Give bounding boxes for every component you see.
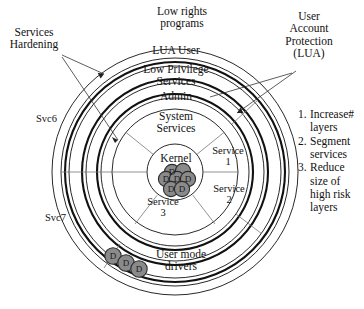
recommendations-list: 1. Increase# layers 2. Segment services … xyxy=(298,108,362,215)
driver-glyph: D xyxy=(185,174,192,184)
leader-line xyxy=(237,71,296,113)
driver-glyph: D xyxy=(163,174,170,184)
kernel-driver-cluster: D D D D D D xyxy=(158,163,195,196)
leader-arrowhead xyxy=(112,137,118,143)
driver-glyph: D xyxy=(174,174,181,184)
list-item: 3. Reduce size of high risk layers xyxy=(298,161,362,214)
leader-line xyxy=(62,55,104,74)
ring-label-lua-user: LUA User xyxy=(143,44,209,56)
callout-services-hardening: Services Hardening xyxy=(3,26,65,51)
driver-glyph: D xyxy=(123,258,130,268)
list-item-text: Increase# layers xyxy=(310,108,354,135)
list-item-number: 2. xyxy=(298,135,310,148)
ring-label-kernel: Kernel xyxy=(150,152,202,164)
segment-label-service-3: Service 3 xyxy=(137,196,189,219)
diagram-canvas: D D D D D D D D D LU xyxy=(0,0,364,309)
driver-glyph: D xyxy=(168,184,175,194)
list-item-text: Reduce size of high risk layers xyxy=(310,161,351,214)
ring-label-admin: Admin xyxy=(149,90,203,102)
driver-glyph: D xyxy=(179,184,186,194)
annotation-svc7: Svc7 xyxy=(45,212,89,223)
annotation-user-mode-drivers: User mode drivers xyxy=(141,248,221,273)
ring-label-low-privilege-services: Low Privilege Services xyxy=(128,63,224,88)
segment-label-service-2: Service 2 xyxy=(203,183,255,206)
annotation-svc6: Svc6 xyxy=(36,113,80,124)
ring-label-system-services: System Services xyxy=(142,110,210,135)
outer-divider-se xyxy=(236,214,262,234)
list-item-number: 1. xyxy=(298,108,310,121)
outer-divider-ne xyxy=(232,100,258,124)
callout-user-account-protection: User Account Protection (LUA) xyxy=(272,10,346,60)
list-item: 2. Segment services xyxy=(298,135,362,162)
list-item: 1. Increase# layers xyxy=(298,108,362,135)
callout-low-rights-programs: Low rights programs xyxy=(142,5,222,30)
list-item-number: 3. xyxy=(298,161,310,174)
list-item-text: Segment services xyxy=(310,135,350,162)
segment-label-service-1: Service 1 xyxy=(203,145,253,168)
driver-glyph: D xyxy=(110,251,117,261)
